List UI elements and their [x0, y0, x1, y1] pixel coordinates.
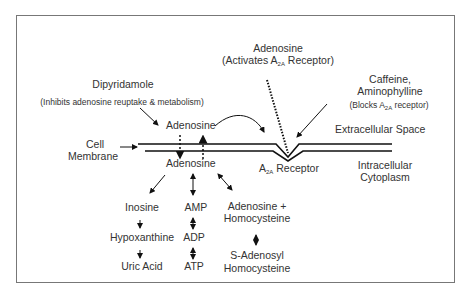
dipyridamole-label: Dipyridamole	[92, 78, 153, 90]
adenosine-homocysteine-label-1: Adenosine +	[228, 200, 287, 212]
sah-label-2: Homocysteine	[224, 262, 291, 274]
sah-label-1: S-Adenosyl	[230, 249, 284, 261]
cell-membrane-label-2: Membrane	[68, 150, 118, 162]
adenosine-extracellular: Adenosine	[166, 119, 216, 131]
dipyridamole-note: (Inhibits adenosine reuptake & metabolis…	[40, 96, 203, 108]
uric-acid-label: Uric Acid	[121, 260, 162, 272]
extracellular-label: Extracellular Space	[335, 123, 425, 135]
to-inosine-arrow	[150, 175, 165, 193]
caffeine-note: (Blocks A2A receptor)	[349, 99, 428, 114]
hypoxanthine-label: Hypoxanthine	[110, 231, 174, 243]
adenosine-homocysteine-label-2: Homocysteine	[224, 212, 291, 224]
amp-label: AMP	[185, 201, 208, 213]
intracellular-label-1: Intracellular	[358, 159, 412, 171]
a2a-receptor-label: A2A Receptor	[259, 162, 319, 178]
activation-dotted-line	[267, 80, 288, 153]
adenosine-top-label: Adenosine	[253, 42, 303, 54]
caffeine-block-arrow	[297, 104, 327, 137]
caffeine-label: Caffeine,	[369, 73, 411, 85]
adenosine-top-note: (Activates A2A Receptor)	[222, 54, 334, 70]
intracellular-label-2: Cytoplasm	[360, 171, 410, 183]
inosine-label: Inosine	[125, 201, 159, 213]
cell-membrane-label-1: Cell	[86, 138, 104, 150]
adenosine-intracellular: Adenosine	[166, 157, 216, 169]
aminophylline-label: Aminophylline	[357, 85, 422, 97]
homocysteine-arrow	[218, 174, 232, 190]
dipyridamole-arrow	[140, 108, 158, 125]
atp-label: ATP	[184, 260, 204, 272]
adenosine-to-receptor-arrow	[215, 115, 264, 132]
adp-label: ADP	[183, 231, 205, 243]
